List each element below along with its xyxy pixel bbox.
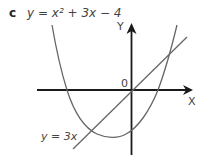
- origin-label: 0: [121, 77, 128, 90]
- curve-equation-label: y = x² + 3x − 4: [26, 6, 121, 20]
- y-axis-label: Y: [116, 20, 124, 33]
- line-equation-label: y = 3x: [40, 130, 78, 143]
- x-axis-label: X: [188, 95, 196, 108]
- graph-figure: c y = x² + 3x − 4 X Y 0 y = 3x: [0, 0, 205, 162]
- part-label: c: [9, 6, 16, 20]
- parabola-curve: [52, 25, 177, 137]
